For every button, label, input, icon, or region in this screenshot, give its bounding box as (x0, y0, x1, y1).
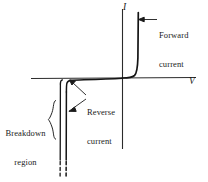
reverse-current-label-line2: current (87, 137, 115, 147)
vertical-axis-label-i: I (123, 2, 126, 12)
reverse-current-leader-line-upper (73, 83, 87, 96)
breakdown-branch-outer-top-hook (60, 80, 62, 84)
forward-current-label-line2: current (159, 60, 189, 70)
breakdown-region-brace (48, 101, 55, 140)
breakdown-region-label-line1: Breakdown (2, 129, 49, 139)
reverse-current-label-line1: Reverse (87, 108, 115, 118)
diode-iv-characteristic-figure: Forward current Reverse current Breakdow… (0, 0, 208, 182)
breakdown-region-label-line2: region (2, 158, 49, 168)
forward-current-arrowhead-icon (139, 17, 145, 22)
forward-current-curve (123, 13, 139, 79)
breakdown-knee-curve (66, 81, 70, 93)
breakdown-region-label: Breakdown region (2, 110, 49, 182)
breakdown-region-brace-path (48, 101, 55, 140)
forward-current-label-line1: Forward (159, 31, 189, 41)
reverse-current-label: Reverse current (87, 89, 115, 165)
forward-current-label: Forward current (159, 12, 189, 88)
reverse-current-arrowhead-lower-icon (69, 107, 76, 111)
horizontal-axis-label-v: V (189, 76, 195, 86)
